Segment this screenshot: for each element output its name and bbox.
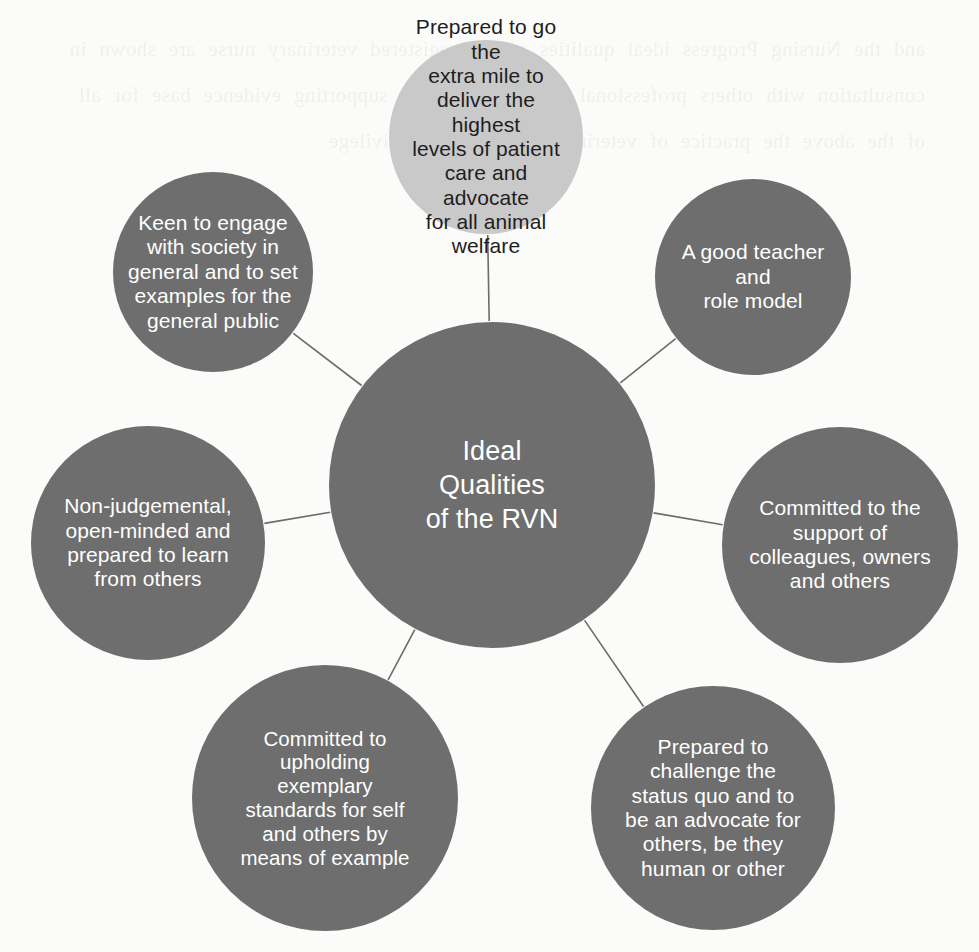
connector-engage-society: [293, 333, 361, 385]
node-center[interactable]: Ideal Qualities of the RVN: [329, 322, 655, 648]
connector-exemplary-standards: [388, 630, 415, 680]
node-exemplary-standards-label: Committed to upholding exemplary standar…: [208, 727, 442, 870]
connector-non-judgemental: [264, 512, 330, 523]
connector-teacher-role-model: [620, 339, 675, 383]
node-extra-mile-label: Prepared to go the extra mile to deliver…: [401, 15, 572, 259]
node-center-label: Ideal Qualities of the RVN: [349, 434, 636, 536]
node-exemplary-standards[interactable]: Committed to upholding exemplary standar…: [192, 665, 458, 931]
node-challenge-status-quo-label: Prepared to challenge the status quo and…: [606, 735, 821, 881]
node-engage-society[interactable]: Keen to engage with society in general a…: [113, 172, 313, 372]
node-non-judgemental-label: Non-judgemental, open-minded and prepare…: [45, 494, 251, 591]
node-engage-society-label: Keen to engage with society in general a…: [125, 211, 301, 333]
connector-challenge-status-quo: [585, 620, 644, 706]
node-support-colleagues[interactable]: Committed to the support of colleagues, …: [722, 427, 958, 663]
diagram-canvas: and the Nursing Progress ideal qualities…: [0, 0, 979, 952]
node-support-colleagues-label: Committed to the support of colleagues, …: [736, 496, 944, 593]
node-teacher-role-model-label: A good teacher and role model: [667, 240, 839, 313]
connector-support-colleagues: [654, 513, 723, 525]
node-challenge-status-quo[interactable]: Prepared to challenge the status quo and…: [591, 686, 835, 930]
node-extra-mile[interactable]: Prepared to go the extra mile to deliver…: [389, 40, 583, 234]
node-teacher-role-model[interactable]: A good teacher and role model: [655, 179, 851, 375]
node-non-judgemental[interactable]: Non-judgemental, open-minded and prepare…: [31, 426, 265, 660]
